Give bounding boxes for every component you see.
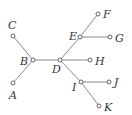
node-label-c: C [8,19,17,32]
node-e-circle-icon [78,35,82,39]
node-label-j: J [112,76,119,89]
node-label-h: H [94,55,105,68]
node-b-circle-icon [31,58,35,62]
node-i-circle-icon [79,80,83,84]
edge-d-i [60,60,81,82]
node-h-circle-icon [88,58,92,62]
node-label-b: B [19,55,28,68]
node-label-g: G [115,32,124,45]
labels-layer: ABCDEFGHIJK [8,8,124,114]
tree-diagram: ABCDEFGHIJK [0,0,132,115]
node-label-e: E [68,30,77,43]
node-g-circle-icon [108,35,112,39]
node-c-circle-icon [11,34,15,38]
node-label-k: K [103,101,113,114]
node-d-circle-icon [58,58,62,62]
node-a-circle-icon [11,81,15,85]
edge-i-k [81,82,99,106]
edge-e-f [80,14,98,37]
node-label-f: F [102,8,111,21]
node-label-a: A [8,89,17,102]
node-k-circle-icon [97,104,101,108]
node-j-circle-icon [107,80,111,84]
node-label-d: D [51,63,61,76]
node-f-circle-icon [96,12,100,16]
node-label-i: I [71,81,77,94]
